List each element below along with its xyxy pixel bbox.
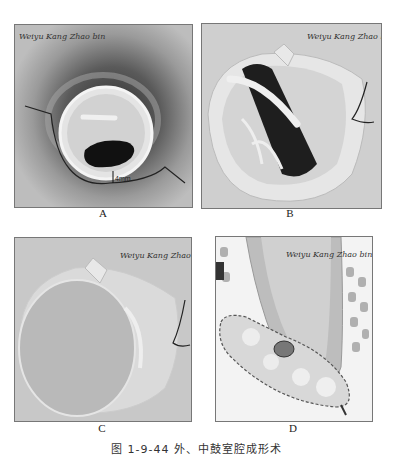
artist-signature-b: Weiyu Kang Zhao bin [307,32,381,41]
panel-c-label: C [82,422,122,434]
figure-caption: 图 1-9-44 外、中鼓室腔成形术 [0,440,393,456]
panel-d-illustration: Weiyu Kang Zhao bin [215,236,373,422]
ear-cross-section-drawing-d: Weiyu Kang Zhao bin [216,237,372,421]
measurement-4mm: 4mm [115,175,131,182]
artist-signature-a: Weiyu Kang Zhao bin [19,32,105,41]
ear-canal-drawing-c: Weiyu Kang Zhao bin [15,238,191,421]
panel-d-label: D [273,422,313,434]
ear-canal-drawing-b: Weiyu Kang Zhao bin [202,24,381,208]
panel-a-label: A [83,207,123,219]
artist-signature-d: Weiyu Kang Zhao bin [286,250,372,259]
panel-a-illustration: 4mm Weiyu Kang Zhao bin [14,24,193,208]
ear-canal-drawing-a: 4mm Weiyu Kang Zhao bin [15,25,192,207]
artist-signature-c: Weiyu Kang Zhao bin [120,251,191,260]
panel-b-label: B [270,207,310,219]
panel-c-illustration: Weiyu Kang Zhao bin [14,237,192,422]
panel-b-illustration: Weiyu Kang Zhao bin [201,23,382,209]
